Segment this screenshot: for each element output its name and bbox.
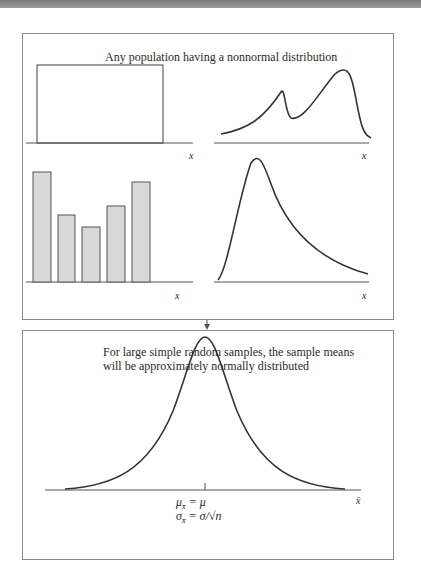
header-bar (0, 0, 421, 8)
bar-2 (58, 215, 75, 282)
skewed-x-label: x (361, 290, 367, 301)
sampling-distribution-panel: For large simple random samples, the sam… (22, 330, 394, 560)
population-plots: x x x x (23, 34, 395, 321)
bar-3 (82, 227, 100, 282)
uniform-x-label: x (188, 150, 194, 161)
sd-formula: σx̄ = σ/√n (176, 509, 221, 528)
bar-plot: x (26, 172, 193, 301)
bar-4 (107, 206, 125, 282)
uniform-plot: x (26, 65, 194, 161)
bar-1 (33, 172, 51, 282)
bar-5 (132, 182, 150, 282)
bimodal-plot: x (214, 70, 371, 161)
bimodal-x-label: x (361, 150, 367, 161)
bar-x-label: x (174, 290, 180, 301)
population-panel: Any population having a nonnormal distri… (22, 33, 394, 320)
skewed-plot: x (214, 159, 369, 301)
xbar-axis-label: x̄ (355, 495, 361, 506)
